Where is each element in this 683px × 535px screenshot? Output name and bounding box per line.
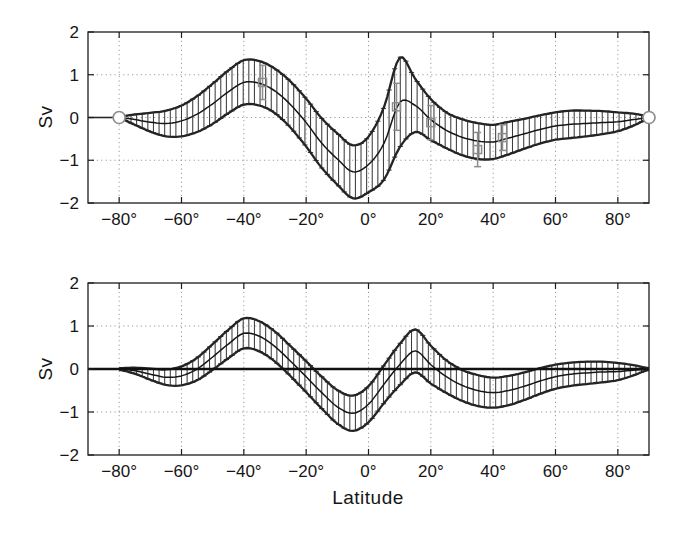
y-axis-label-top-panel: Sv [35, 105, 57, 128]
y-tick-label: 0 [70, 360, 79, 379]
y-axis-label-bottom-panel: Sv [35, 357, 57, 380]
x-tick-label: 40° [480, 462, 506, 481]
x-tick-label: −20° [288, 462, 324, 481]
x-tick-label: −80° [101, 210, 137, 229]
errorbar-figure: −80°−60°−40°−20°0°20°40°60°80°210−1−2−80… [0, 0, 683, 535]
y-tick-label: 1 [70, 317, 79, 336]
y-tick-label: 2 [70, 274, 79, 293]
y-tick-label: 2 [70, 23, 79, 42]
y-tick-label: −2 [60, 446, 79, 465]
x-tick-label: −20° [288, 210, 324, 229]
x-tick-label: −40° [226, 210, 262, 229]
x-axis-label: Latitude [332, 487, 404, 509]
x-tick-label: −40° [226, 462, 262, 481]
observation-marker [393, 83, 401, 130]
x-tick-label: 0° [360, 462, 376, 481]
y-tick-label: −1 [60, 151, 79, 170]
x-tick-label: −80° [101, 462, 137, 481]
plots-canvas: −80°−60°−40°−20°0°20°40°60°80°210−1−2−80… [0, 0, 683, 535]
observation-marker [499, 125, 507, 151]
x-tick-label: 80° [605, 462, 631, 481]
endpoint-circle-marker [643, 112, 655, 124]
x-tick-label: 20° [418, 210, 444, 229]
x-tick-label: 80° [605, 210, 631, 229]
y-tick-label: 0 [70, 109, 79, 128]
x-tick-label: −60° [164, 210, 200, 229]
x-tick-label: 60° [543, 210, 569, 229]
endpoint-circle-marker [113, 112, 125, 124]
x-tick-label: 60° [543, 462, 569, 481]
y-tick-label: −2 [60, 194, 79, 213]
y-tick-label: 1 [70, 66, 79, 85]
top-panel-group: −80°−60°−40°−20°0°20°40°60°80°210−1−2 [60, 23, 655, 229]
error-bars [123, 57, 644, 198]
bottom-panel-group: −80°−60°−40°−20°0°20°40°60°80°210−1−2 [60, 274, 649, 481]
observation-marker [474, 132, 482, 166]
x-tick-label: 20° [418, 462, 444, 481]
y-tick-label: −1 [60, 403, 79, 422]
x-tick-label: −60° [164, 462, 200, 481]
x-tick-label: 40° [480, 210, 506, 229]
x-tick-label: 0° [360, 210, 376, 229]
